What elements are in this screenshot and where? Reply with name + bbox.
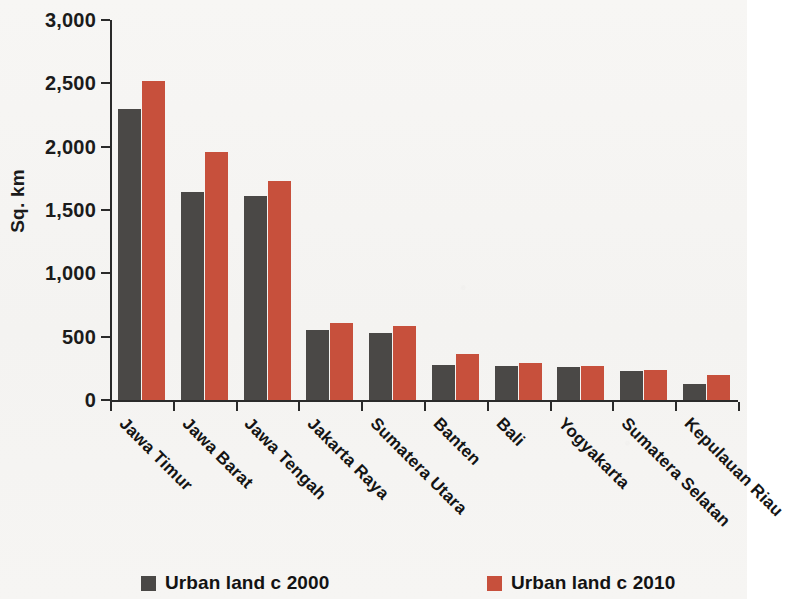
bar-urban-2010	[644, 370, 667, 400]
bar-urban-2000	[118, 109, 141, 400]
legend-label: Urban land c 2010	[511, 572, 675, 594]
bar-urban-2000	[495, 366, 518, 400]
bars-layer	[110, 20, 738, 400]
x-axis-tick-mark	[110, 402, 112, 411]
x-axis-tick-mark	[550, 402, 552, 411]
y-axis-tick-label: 3,000	[4, 9, 96, 32]
bar-urban-2000	[557, 367, 580, 400]
x-axis-tick-mark	[738, 402, 740, 411]
x-axis-tick-mark	[361, 402, 363, 411]
bar-urban-2010	[581, 366, 604, 400]
bar-urban-2000	[683, 384, 706, 400]
y-axis-tick-labels: 05001,0001,5002,0002,5003,000	[0, 0, 96, 599]
bar-urban-2000	[432, 365, 455, 400]
legend-color-swatch-icon	[141, 576, 156, 591]
bar-urban-2000	[620, 371, 643, 400]
y-axis-tick-mark	[101, 336, 110, 338]
bar-urban-2010	[456, 354, 479, 400]
x-axis-category-label: Sumatera Selatan	[617, 414, 734, 531]
bar-urban-2010	[205, 152, 228, 400]
x-axis-tick-mark	[424, 402, 426, 411]
chart-legend: Urban land c 2000Urban land c 2010	[0, 570, 747, 598]
y-axis-tick-label: 1,000	[4, 262, 96, 285]
legend-item: Urban land c 2010	[487, 572, 675, 594]
y-axis-tick-label: 2,000	[4, 135, 96, 158]
bar-urban-2000	[306, 330, 329, 400]
y-axis-tick-mark	[101, 19, 110, 21]
y-axis-tick-mark	[101, 209, 110, 211]
y-axis-tick-label: 500	[4, 325, 96, 348]
y-axis-tick-mark	[101, 272, 110, 274]
y-axis-tick-mark	[101, 146, 110, 148]
x-axis-tick-mark	[236, 402, 238, 411]
bar-urban-2010	[142, 81, 165, 400]
bar-urban-2000	[181, 192, 204, 400]
legend-item: Urban land c 2000	[141, 572, 329, 594]
bar-urban-2010	[519, 363, 542, 400]
bar-urban-2010	[268, 181, 291, 400]
bar-urban-2000	[369, 333, 392, 400]
bar-urban-2010	[330, 323, 353, 400]
x-axis-tick-mark	[675, 402, 677, 411]
y-axis-tick-label: 1,500	[4, 199, 96, 222]
bar-urban-2010	[707, 375, 730, 400]
y-axis-tick-mark	[101, 82, 110, 84]
x-axis-category-label: Banten	[429, 414, 485, 470]
y-axis-tick-mark	[101, 399, 110, 401]
x-axis-tick-mark	[487, 402, 489, 411]
x-axis-tick-mark	[173, 402, 175, 411]
legend-label: Urban land c 2000	[165, 572, 329, 594]
y-axis-tick-label: 2,500	[4, 72, 96, 95]
legend-color-swatch-icon	[487, 576, 502, 591]
x-axis-tick-mark	[612, 402, 614, 411]
x-axis-category-label: Bali	[492, 414, 529, 451]
y-axis-tick-label: 0	[4, 389, 96, 412]
bar-urban-2010	[393, 326, 416, 400]
bar-urban-2000	[244, 196, 267, 400]
x-axis-tick-mark	[298, 402, 300, 411]
